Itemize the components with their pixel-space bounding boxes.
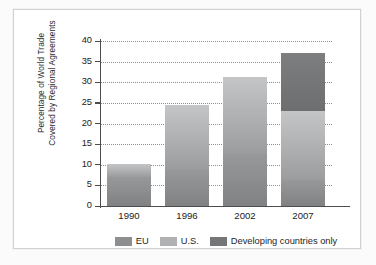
legend-swatch: [115, 237, 132, 246]
bar-group[interactable]: 1996: [165, 41, 209, 206]
x-axis-line: [98, 206, 350, 207]
y-tick-label: 30: [66, 76, 92, 87]
x-tick-label: 1990: [107, 210, 151, 221]
bar-group[interactable]: 2007: [281, 41, 325, 206]
bar-segment[interactable]: [281, 53, 325, 111]
y-axis-title-line-1: Percentage of World Trade: [36, 0, 47, 173]
bars-group: 1990199620022007: [100, 41, 332, 206]
bar-segment[interactable]: [281, 180, 325, 206]
bar-segment[interactable]: [107, 164, 151, 177]
y-tick-label: 10: [66, 159, 92, 170]
y-tick-label: 15: [66, 138, 92, 149]
legend-swatch: [210, 237, 227, 246]
y-tick-label: 25: [66, 97, 92, 108]
legend-label: U.S.: [181, 236, 199, 246]
y-tick-label: 35: [66, 56, 92, 67]
y-axis-title-line-2: Covered by Regional Agreements: [47, 0, 58, 173]
bar-group[interactable]: 2002: [223, 41, 267, 206]
x-tick-label: 2002: [223, 210, 267, 221]
y-tick-label: 20: [66, 118, 92, 129]
figure-container: Percentage of World Trade Covered by Reg…: [0, 0, 376, 265]
y-tick-label: 0: [66, 200, 92, 211]
y-axis-title: Percentage of World Trade Covered by Reg…: [36, 0, 58, 173]
bar-segment[interactable]: [107, 177, 151, 206]
legend-item[interactable]: EU: [115, 236, 149, 246]
legend-item[interactable]: U.S.: [160, 236, 199, 246]
x-tick-label: 1996: [165, 210, 209, 221]
bar-group[interactable]: 1990: [107, 41, 151, 206]
legend-label: Developing countries only: [231, 236, 337, 246]
y-tick-label: 5: [66, 179, 92, 190]
chart-frame: Percentage of World Trade Covered by Reg…: [13, 9, 361, 249]
legend-item[interactable]: Developing countries only: [210, 236, 337, 246]
bar-segment[interactable]: [223, 154, 267, 206]
legend-label: EU: [136, 236, 149, 246]
plot-area: 0510152025303540 1990199620022007: [100, 41, 332, 206]
y-tick-label: 40: [66, 35, 92, 46]
bar-segment[interactable]: [165, 105, 209, 170]
bar-segment[interactable]: [165, 170, 209, 206]
chart-legend: EUU.S.Developing countries only: [100, 236, 352, 246]
bar-segment[interactable]: [281, 111, 325, 180]
bar-segment[interactable]: [223, 77, 267, 154]
legend-swatch: [160, 237, 177, 246]
x-tick-label: 2007: [281, 210, 325, 221]
